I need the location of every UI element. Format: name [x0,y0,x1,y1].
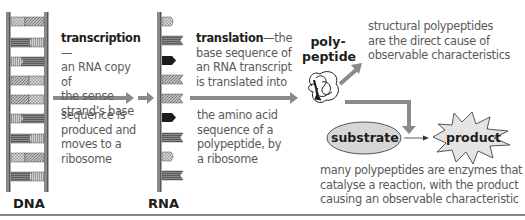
reaction-arrow-icon [404,136,429,141]
enzymes-description: many polypeptides are enzymes that catal… [320,163,525,207]
dna-label: DNA [13,196,45,211]
bottom-rule [0,214,525,216]
rna-strand-icon [157,12,183,192]
transcription-description: transcription— an RNA copy of the sense … [61,31,141,119]
product-label: product [446,130,498,145]
translation-term: translation [196,31,263,45]
transcription-term: transcription [61,31,140,45]
substrate-label: substrate [331,130,397,145]
translation-arrow-icon [190,92,298,104]
structural-description: structural polypeptides are the direct c… [368,19,525,63]
transcription-description-continued: sequence is produced and moves to a ribo… [61,108,141,166]
translation-description: translation—the base sequence of an RNA … [196,31,301,89]
polypeptide-icon [309,72,339,103]
rna-label: RNA [148,196,179,211]
polypeptide-label: poly- peptide [302,34,354,64]
dna-double-helix-icon [6,12,49,192]
translation-description-continued: the amino acid sequence of a polypeptide… [197,108,302,166]
structural-arrow-icon [340,63,362,84]
